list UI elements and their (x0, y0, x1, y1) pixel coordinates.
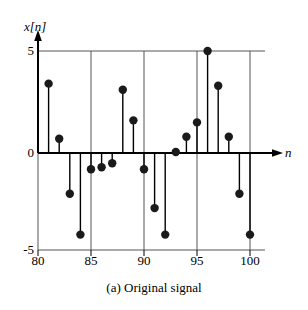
data-point-marker (108, 159, 116, 167)
x-tick-label-80: 80 (23, 254, 53, 267)
y-tick-label-5: 5 (12, 44, 34, 57)
data-point-marker (129, 116, 137, 124)
data-point-marker (76, 230, 84, 238)
x-tick-label-95: 95 (182, 254, 212, 267)
y-axis-label: x[n] (24, 20, 46, 33)
x-tick-label-85: 85 (76, 254, 106, 267)
data-point-marker (66, 190, 74, 198)
data-point-marker (97, 163, 105, 171)
y-tick-label-0: 0 (12, 146, 34, 159)
x-tick-label-100: 100 (235, 254, 265, 267)
axes-group (34, 30, 283, 157)
figure-caption: (a) Original signal (0, 281, 308, 294)
data-point-marker (140, 165, 148, 173)
data-point-marker (235, 190, 243, 198)
data-point-marker (150, 204, 158, 212)
data-point-marker (55, 135, 63, 143)
data-point-marker (225, 132, 233, 140)
x-axis-label: n (285, 146, 292, 159)
data-point-marker (119, 86, 127, 94)
data-point-marker (182, 132, 190, 140)
stem-series (44, 47, 254, 239)
data-point-marker (87, 165, 95, 173)
gridlines-group (38, 51, 265, 250)
data-point-marker (44, 79, 52, 87)
data-point-marker (161, 230, 169, 238)
x-tick-label-90: 90 (129, 254, 159, 267)
x-axis-arrow (272, 149, 283, 157)
data-point-marker (203, 47, 211, 55)
figure-original-signal: x[n] n 5 0 -5 80 85 90 95 100 (a) Origin… (0, 0, 308, 310)
data-point-marker (172, 148, 180, 156)
data-point-marker (246, 230, 254, 238)
data-point-marker (214, 81, 222, 89)
data-point-marker (193, 118, 201, 126)
